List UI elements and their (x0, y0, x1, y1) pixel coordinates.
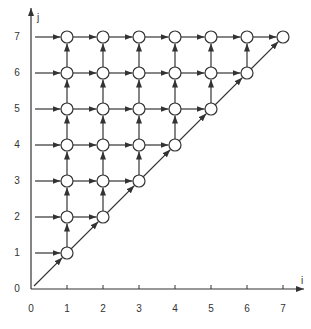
x-tick-label: 7 (280, 304, 286, 314)
lattice-node (133, 175, 145, 187)
y-tick-label: 2 (14, 212, 20, 222)
x-axis-label: i (301, 276, 303, 286)
lattice-node (241, 67, 253, 79)
lattice-node (61, 175, 73, 187)
lattice-node (97, 67, 109, 79)
lattice-node (205, 67, 217, 79)
lattice-node (169, 67, 181, 79)
edge-diagonal (34, 258, 62, 286)
lattice-node (133, 103, 145, 115)
lattice-node (133, 139, 145, 151)
lattice-node (133, 31, 145, 43)
lattice-graph (0, 0, 311, 329)
lattice-node (97, 175, 109, 187)
x-tick-label: 0 (28, 304, 34, 314)
edge-diagonal (247, 42, 278, 73)
edge-diagonal (103, 186, 134, 217)
diagram-canvas: 0123456701234567ij (0, 0, 311, 329)
lattice-node (61, 211, 73, 223)
x-tick-label: 6 (244, 304, 250, 314)
y-tick-label: 5 (14, 104, 20, 114)
edge-diagonal (175, 114, 206, 145)
lattice-node (133, 67, 145, 79)
lattice-node (169, 139, 181, 151)
x-tick-label: 5 (208, 304, 214, 314)
x-tick-label: 1 (64, 304, 70, 314)
lattice-node (61, 67, 73, 79)
edge-diagonal (211, 78, 242, 109)
lattice-node (97, 103, 109, 115)
y-axis-label: j (37, 13, 39, 23)
x-tick-label: 2 (100, 304, 106, 314)
x-tick-label: 3 (136, 304, 142, 314)
y-tick-label: 4 (14, 140, 20, 150)
lattice-node (205, 31, 217, 43)
lattice-node (169, 31, 181, 43)
lattice-node (241, 31, 253, 43)
lattice-node (97, 139, 109, 151)
lattice-node (277, 31, 289, 43)
lattice-node (61, 247, 73, 259)
y-tick-label: 6 (14, 68, 20, 78)
y-tick-label: 3 (14, 176, 20, 186)
lattice-node (97, 211, 109, 223)
y-tick-label: 7 (14, 32, 20, 42)
edge-diagonal (139, 150, 170, 181)
lattice-node (61, 31, 73, 43)
edge-diagonal (67, 222, 98, 253)
y-tick-label: 0 (14, 284, 20, 294)
lattice-node (61, 103, 73, 115)
lattice-node (97, 31, 109, 43)
x-tick-label: 4 (172, 304, 178, 314)
lattice-node (61, 139, 73, 151)
y-tick-label: 1 (14, 248, 20, 258)
lattice-node (169, 103, 181, 115)
lattice-node (205, 103, 217, 115)
